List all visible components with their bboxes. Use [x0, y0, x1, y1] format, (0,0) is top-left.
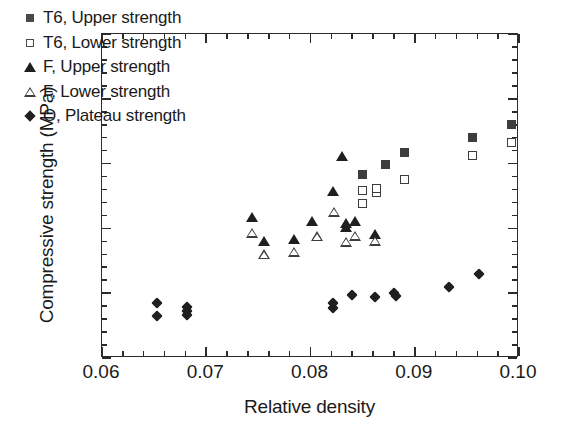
scatter-plot-figure: Compressive strength (MPa) Relative dens… — [0, 0, 563, 433]
data-point — [358, 170, 367, 179]
legend-marker-icon — [17, 6, 43, 31]
data-point — [358, 186, 367, 195]
legend-label: T6, Lower strength — [43, 33, 181, 53]
filled-diamond-icon — [24, 111, 35, 122]
data-point — [258, 249, 270, 259]
tick-mark — [518, 347, 520, 356]
data-point — [152, 310, 163, 321]
data-point — [507, 138, 516, 147]
legend-marker-icon — [17, 80, 43, 105]
data-point — [468, 133, 477, 142]
x-tick-label: 0.09 — [379, 362, 449, 381]
data-point — [400, 148, 409, 157]
legend-label: T6, Upper strength — [43, 8, 181, 28]
data-point — [152, 297, 163, 308]
data-point — [443, 281, 454, 292]
data-point — [349, 216, 361, 226]
data-point — [400, 175, 409, 184]
x-axis-title: Relative density — [101, 396, 518, 418]
data-point — [306, 216, 318, 226]
data-point — [258, 236, 270, 246]
data-point — [369, 291, 380, 302]
data-point — [288, 247, 300, 257]
x-tick-label: 0.10 — [483, 362, 553, 381]
filled-square-icon — [26, 14, 34, 22]
filled-triangle-icon — [24, 62, 36, 72]
data-point — [474, 269, 485, 280]
legend-item-4: O, Plateau strength — [17, 104, 186, 129]
legend-marker-icon — [17, 104, 43, 129]
x-tick-label: 0.08 — [275, 362, 345, 381]
data-point — [507, 120, 516, 129]
open-triangle-icon — [24, 87, 36, 97]
tick-mark — [518, 34, 520, 43]
data-point — [381, 160, 390, 169]
data-point — [336, 151, 348, 161]
data-point — [372, 184, 381, 193]
x-tick-label: 0.06 — [66, 362, 136, 381]
open-square-icon — [26, 39, 34, 47]
legend-marker-icon — [17, 55, 43, 80]
data-point — [311, 231, 323, 241]
x-tick-label: 0.07 — [170, 362, 240, 381]
legend-label: F, Lower strength — [43, 82, 170, 102]
legend-item-3: F, Lower strength — [17, 80, 186, 105]
data-point — [347, 289, 358, 300]
data-point — [390, 291, 401, 302]
data-point — [349, 231, 361, 241]
data-point — [288, 234, 300, 244]
data-point — [369, 236, 381, 246]
legend-item-0: T6, Upper strength — [17, 6, 186, 31]
chart-legend: T6, Upper strengthT6, Lower strengthF, U… — [17, 6, 186, 129]
data-point — [358, 199, 367, 208]
tick-mark — [102, 357, 111, 359]
legend-marker-icon — [17, 31, 43, 56]
legend-item-1: T6, Lower strength — [17, 31, 186, 56]
legend-label: F, Upper strength — [43, 57, 170, 77]
data-point — [328, 207, 340, 217]
data-point — [246, 228, 258, 238]
data-point — [468, 151, 477, 160]
data-point — [246, 212, 258, 222]
tick-mark — [508, 357, 517, 359]
legend-label: O, Plateau strength — [43, 106, 186, 126]
legend-item-2: F, Upper strength — [17, 55, 186, 80]
data-point — [327, 186, 339, 196]
